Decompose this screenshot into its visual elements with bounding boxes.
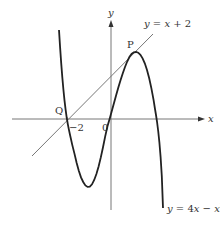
curve-eq-eq: = 4: [173, 203, 194, 214]
point-P-label: P: [127, 39, 134, 50]
x-axis-label: x: [208, 113, 214, 124]
line-eq-eq: =: [150, 18, 165, 29]
curve-equation-label: y = 4x − x3: [166, 202, 220, 214]
x-tick-label-neg2: −2: [69, 122, 84, 133]
y-axis-label: y: [107, 7, 114, 18]
cubic-tangent-diagram: x y 0 −2 P Q y = x + 2 y = 4x − x3: [0, 0, 220, 225]
x-axis-arrow-icon: [198, 117, 205, 122]
line-equation-label: y = x + 2: [143, 18, 191, 29]
point-Q-label: Q: [55, 105, 63, 116]
curve-eq-minus: −: [199, 203, 214, 214]
y-axis-arrow-icon: [109, 20, 114, 27]
line-eq-rest: + 2: [170, 18, 191, 29]
